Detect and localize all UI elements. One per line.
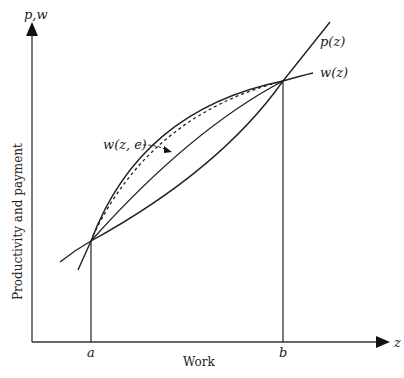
y-axis-label: p,w	[24, 7, 48, 22]
x-axis-arrow-icon	[376, 336, 390, 348]
x-axis-title: Work	[183, 355, 215, 369]
productivity-payment-diagram: p,w z Productivity and payment Work a b …	[0, 0, 404, 378]
x-axis-label: z	[393, 335, 401, 350]
curve-w-z	[60, 73, 313, 262]
point-a-label: a	[87, 345, 95, 360]
curve-w-z-label: w(z)	[320, 65, 348, 80]
y-axis-arrow-icon	[26, 22, 38, 36]
point-b-label: b	[279, 345, 287, 360]
curve-upper-bound	[91, 81, 283, 241]
leader-arrow-icon	[164, 146, 172, 153]
curve-p-z-label: p(z)	[320, 34, 345, 49]
curve-w-z-eps-label: w(z, ϵ)	[103, 137, 147, 152]
curve-w-z-eps	[93, 81, 283, 236]
y-axis-title: Productivity and payment	[11, 143, 25, 300]
